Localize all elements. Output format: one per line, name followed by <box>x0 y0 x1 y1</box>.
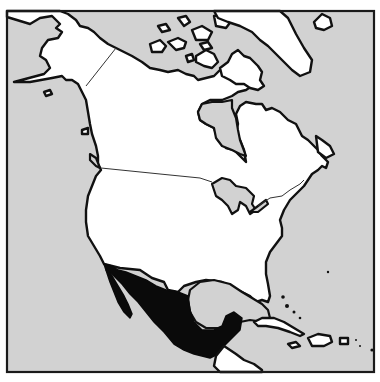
arctic-island <box>158 24 170 32</box>
alaska-island <box>44 90 52 96</box>
arctic-island <box>186 54 194 62</box>
lesser-antilles-island <box>355 339 357 341</box>
puerto-rico <box>340 338 348 344</box>
hispaniola <box>308 334 332 346</box>
bahamas-island <box>281 295 285 299</box>
north-america-map <box>0 0 380 382</box>
bahamas-island <box>299 317 302 320</box>
alaska-island <box>82 128 88 134</box>
arctic-island <box>200 42 212 50</box>
jamaica <box>288 342 300 348</box>
bahamas-island <box>293 311 296 314</box>
lesser-antilles-island <box>359 345 361 347</box>
bahamas-island <box>285 304 289 308</box>
bermuda <box>327 271 329 273</box>
